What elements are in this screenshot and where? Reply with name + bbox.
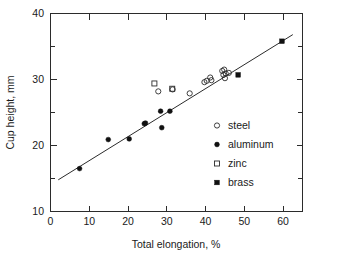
x-tick-label: 40 <box>200 215 212 227</box>
plot-frame <box>51 14 303 212</box>
y-axis-tick-labels: 10 20 30 40 <box>32 7 44 217</box>
x-axis-tick-labels: 0 10 20 30 40 50 60 <box>48 215 289 227</box>
legend-markers <box>214 123 219 185</box>
y-tick-label: 40 <box>32 7 44 19</box>
data-point-steel <box>156 89 161 94</box>
legend-marker-brass <box>215 180 220 185</box>
x-axis-ticks-top <box>89 14 283 20</box>
data-point-aluminum <box>159 125 164 130</box>
y-tick-label: 20 <box>32 139 44 151</box>
legend-marker-steel <box>214 123 219 128</box>
y-tick-label: 10 <box>32 205 44 217</box>
data-point-aluminum <box>143 121 148 126</box>
y-axis-ticks-right <box>297 47 303 179</box>
legend-marker-aluminum <box>215 142 220 147</box>
legend-label-zinc: zinc <box>228 157 247 169</box>
legend-label-brass: brass <box>228 176 254 188</box>
x-tick-label: 20 <box>122 215 134 227</box>
y-axis-title: Cup height, mm <box>4 75 16 149</box>
x-tick-label: 10 <box>83 215 95 227</box>
data-point-aluminum <box>168 109 173 114</box>
data-point-brass <box>236 73 241 78</box>
data-point-zinc <box>152 81 157 86</box>
y-axis-ticks <box>51 14 57 212</box>
y-tick-label: 30 <box>32 73 44 85</box>
legend-marker-zinc <box>215 161 220 166</box>
x-tick-label: 60 <box>277 215 289 227</box>
data-point-aluminum <box>106 137 111 142</box>
legend-label-steel: steel <box>228 119 250 131</box>
scatter-plot: 0 10 20 30 40 50 60 10 20 30 40 Total el… <box>0 0 338 264</box>
data-point-brass <box>280 39 285 44</box>
legend-label-aluminum: aluminum <box>228 138 274 150</box>
chart-figure: 0 10 20 30 40 50 60 10 20 30 40 Total el… <box>0 0 338 264</box>
x-tick-label: 50 <box>238 215 250 227</box>
data-point-aluminum <box>158 109 163 114</box>
series-zinc <box>152 81 175 91</box>
x-tick-label: 30 <box>161 215 173 227</box>
data-point-aluminum <box>127 137 132 142</box>
trend-line <box>58 35 293 180</box>
x-axis-ticks <box>51 206 284 212</box>
legend: steel aluminum zinc brass <box>214 119 273 188</box>
data-point-steel <box>187 91 192 96</box>
x-axis-title: Total elongation, % <box>132 238 221 250</box>
data-point-aluminum <box>77 166 82 171</box>
x-tick-label: 0 <box>48 215 54 227</box>
series-steel <box>156 67 232 96</box>
